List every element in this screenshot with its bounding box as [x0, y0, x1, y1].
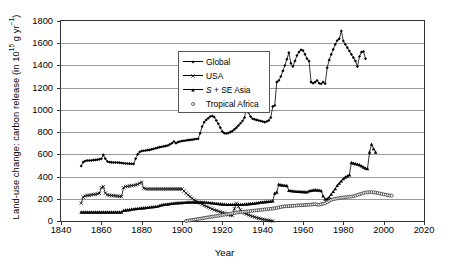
series-s-se-asia	[79, 143, 377, 214]
legend-item-s-se-asia[interactable]: S + SE Asia	[182, 83, 269, 97]
x-axis-tick-label: 2000	[373, 225, 394, 235]
y-axis-tick-label: 800	[37, 127, 53, 137]
y-axis-tick-label: 1200	[32, 83, 53, 93]
data-point	[332, 48, 335, 51]
data-point	[374, 150, 378, 153]
y-axis-title-prefix: Land-use change: carbon release (in 10	[11, 51, 21, 219]
x-axis-tick-label: 1840	[51, 225, 72, 235]
data-point	[199, 132, 202, 135]
legend-symbol	[182, 56, 204, 68]
y-axis-tick-label: 200	[37, 194, 53, 204]
y-axis-tick-label: 1800	[32, 16, 53, 26]
data-point	[281, 69, 284, 72]
x-axis-tick-label: 1940	[252, 225, 273, 235]
data-point	[326, 66, 329, 69]
data-point	[334, 43, 337, 46]
data-point	[358, 55, 361, 58]
series-tropical-africa	[185, 191, 394, 223]
data-point	[191, 74, 194, 77]
data-point	[364, 57, 367, 60]
y-axis-title-mid: g yr	[11, 25, 21, 44]
y-axis-title: Land-use change: carbon release (in 1015…	[11, 10, 21, 225]
diamond-marker	[182, 56, 204, 68]
data-point	[293, 59, 296, 62]
cross-marker	[182, 70, 204, 82]
x-axis-tick	[343, 221, 344, 225]
y-axis-tick-label: 1600	[32, 38, 53, 48]
legend: GlobalUSAS + SE AsiaTropical Africa	[178, 51, 270, 113]
legend-symbol	[182, 70, 204, 82]
figure-root: Land-use change: carbon release (in 1015…	[0, 0, 449, 268]
x-axis-tick-label: 1860	[91, 225, 112, 235]
data-point	[275, 190, 279, 193]
data-point	[303, 53, 306, 56]
x-axis-tick	[182, 221, 183, 225]
legend-symbol	[182, 98, 204, 110]
legend-label: Global	[204, 57, 230, 67]
plot-area: GlobalUSAS + SE AsiaTropical Africa	[60, 20, 425, 222]
data-point	[356, 65, 359, 68]
open-circle-marker	[182, 98, 204, 110]
legend-item-global[interactable]: Global	[182, 55, 269, 69]
x-axis-tick	[222, 221, 223, 225]
x-axis-tick-label: 2020	[414, 225, 435, 235]
legend-item-usa[interactable]: USA	[182, 69, 269, 83]
y-axis-title-close: )	[11, 15, 21, 18]
x-axis-tick	[101, 221, 102, 225]
data-point	[340, 29, 343, 32]
data-point	[134, 157, 137, 160]
data-point	[285, 58, 288, 61]
legend-item-tropical-africa[interactable]: Tropical Africa	[182, 97, 269, 111]
data-point	[368, 150, 372, 153]
x-axis-tick	[303, 221, 304, 225]
y-axis-tick-label: 400	[37, 172, 53, 182]
data-point	[191, 60, 194, 63]
x-axis-tick-label: 1900	[172, 225, 193, 235]
legend-label: USA	[204, 71, 223, 81]
data-point	[197, 137, 200, 140]
y-axis-title-exponent2: −1	[8, 18, 15, 26]
x-axis-tick-label: 1980	[333, 225, 354, 235]
x-axis-tick-label: 1960	[293, 225, 314, 235]
data-point	[102, 153, 105, 156]
x-axis-title: Year	[0, 247, 449, 258]
data-point	[333, 187, 337, 190]
data-point	[191, 88, 195, 91]
x-axis-tick	[424, 221, 425, 225]
data-point	[201, 125, 204, 128]
series-usa	[79, 180, 274, 222]
data-point	[328, 58, 331, 61]
x-axis-tick	[61, 221, 62, 225]
legend-label: Tropical Africa	[204, 99, 259, 109]
y-axis-tick-label: 600	[37, 149, 53, 159]
data-point	[192, 103, 195, 106]
x-axis-tick	[142, 221, 143, 225]
triangle-marker	[182, 84, 204, 96]
legend-symbol	[182, 84, 204, 96]
data-point	[370, 143, 374, 146]
data-point	[132, 162, 135, 165]
legend-label: S + SE Asia	[204, 85, 250, 95]
data-point	[283, 64, 286, 67]
x-axis-tick	[263, 221, 264, 225]
x-axis-tick-label: 1920	[212, 225, 233, 235]
data-point	[321, 194, 325, 197]
data-point	[330, 53, 333, 56]
data-point	[348, 173, 352, 176]
data-point	[80, 164, 83, 167]
x-axis-tick	[384, 221, 385, 225]
x-axis-tick-label: 1880	[131, 225, 152, 235]
data-point	[390, 194, 393, 197]
data-point	[279, 75, 282, 78]
data-point	[287, 51, 290, 54]
series-line	[81, 144, 375, 212]
data-point	[372, 147, 376, 150]
data-point	[219, 126, 222, 129]
y-axis-tick-label: 1000	[32, 105, 53, 115]
y-axis-tick-label: 1400	[32, 60, 53, 70]
y-axis-title-exponent: 15	[8, 44, 15, 51]
